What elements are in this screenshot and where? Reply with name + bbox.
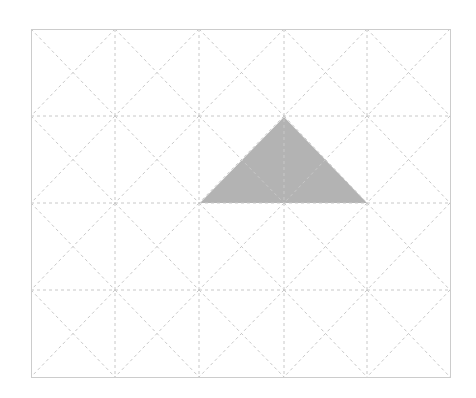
- shape-layer: [200, 117, 367, 203]
- shape-triangle: [200, 117, 367, 203]
- grid-diagram: [0, 0, 476, 398]
